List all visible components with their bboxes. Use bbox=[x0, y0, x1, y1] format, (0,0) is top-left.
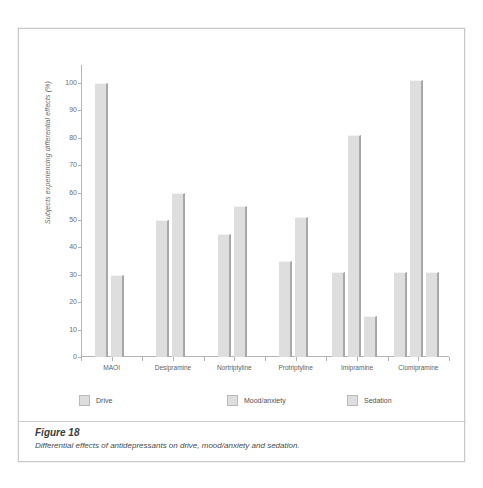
y-axis-tick-label: 80 bbox=[53, 134, 77, 141]
bar-group bbox=[142, 65, 203, 357]
bar[interactable] bbox=[234, 206, 247, 357]
y-axis-tick-label: 90 bbox=[53, 106, 77, 113]
bar-group bbox=[326, 65, 387, 357]
figure-caption: Figure 18 Differential effects of antide… bbox=[35, 427, 455, 451]
x-axis-tick-mark bbox=[234, 357, 235, 361]
x-axis-tick-mark bbox=[173, 357, 174, 361]
x-axis-tick-mark bbox=[418, 357, 419, 361]
x-axis-tick-mark bbox=[142, 357, 143, 361]
y-axis-tick-label: 20 bbox=[53, 298, 77, 305]
bar[interactable] bbox=[172, 193, 185, 357]
legend-label: Drive bbox=[96, 397, 112, 404]
legend-swatch-icon bbox=[79, 395, 90, 406]
bar-group bbox=[81, 65, 142, 357]
legend-item[interactable]: Sedation bbox=[347, 395, 392, 406]
caption-divider bbox=[19, 421, 466, 422]
legend-item[interactable]: Drive bbox=[79, 395, 112, 406]
chart-plot-area: Subjects experiencing differential effec… bbox=[19, 29, 466, 374]
y-axis-tick-label: 70 bbox=[53, 161, 77, 168]
figure-frame: Subjects experiencing differential effec… bbox=[18, 28, 465, 462]
x-axis-tick-mark bbox=[265, 357, 266, 361]
bar[interactable] bbox=[364, 316, 377, 357]
x-axis-category-label: Clomipramine bbox=[398, 364, 438, 371]
legend-label: Mood/anxiety bbox=[244, 397, 286, 404]
x-axis-tick-mark bbox=[326, 357, 327, 361]
x-axis-tick-mark bbox=[449, 357, 450, 361]
x-axis-tick-mark bbox=[357, 357, 358, 361]
x-axis-category-label: MAOI bbox=[103, 364, 120, 371]
x-axis-tick-mark bbox=[112, 357, 113, 361]
bar[interactable] bbox=[394, 272, 407, 357]
bar[interactable] bbox=[295, 217, 308, 357]
bars-layer bbox=[81, 65, 449, 357]
y-axis-tick-label: 30 bbox=[53, 271, 77, 278]
x-axis-tick-mark bbox=[388, 357, 389, 361]
caption-title: Figure 18 bbox=[35, 427, 455, 438]
x-axis-category-label: Imipramine bbox=[341, 364, 373, 371]
y-axis-tick-label: 60 bbox=[53, 189, 77, 196]
bar-group bbox=[388, 65, 449, 357]
y-axis-tick-label: 50 bbox=[53, 216, 77, 223]
bar[interactable] bbox=[218, 234, 231, 357]
bar-group bbox=[265, 65, 326, 357]
x-axis-tick-mark bbox=[204, 357, 205, 361]
y-axis-title: Subjects experiencing differential effec… bbox=[44, 63, 51, 243]
legend-swatch-icon bbox=[227, 395, 238, 406]
x-axis-category-label: Protriptyline bbox=[278, 364, 312, 371]
bar[interactable] bbox=[95, 83, 108, 357]
bar[interactable] bbox=[348, 135, 361, 357]
chart-legend: DriveMood/anxietySedation bbox=[79, 395, 459, 417]
y-axis-tick-label: 0 bbox=[53, 353, 77, 360]
bar[interactable] bbox=[111, 275, 124, 357]
x-axis-category-label: Nortriptyline bbox=[217, 364, 252, 371]
x-axis-category-label: Desipramine bbox=[155, 364, 192, 371]
bar[interactable] bbox=[426, 272, 439, 357]
x-axis-tick-mark bbox=[296, 357, 297, 361]
bar[interactable] bbox=[279, 261, 292, 357]
bar[interactable] bbox=[410, 80, 423, 357]
bar[interactable] bbox=[156, 220, 169, 357]
y-axis-tick-label: 100 bbox=[53, 79, 77, 86]
x-axis-tick-mark bbox=[81, 357, 82, 361]
bar-group bbox=[204, 65, 265, 357]
y-axis-tick-label: 10 bbox=[53, 326, 77, 333]
bar[interactable] bbox=[332, 272, 345, 357]
y-axis-tick-label: 40 bbox=[53, 243, 77, 250]
caption-text: Differential effects of antidepressants … bbox=[35, 441, 455, 451]
legend-swatch-icon bbox=[347, 395, 358, 406]
legend-item[interactable]: Mood/anxiety bbox=[227, 395, 286, 406]
legend-label: Sedation bbox=[364, 397, 392, 404]
